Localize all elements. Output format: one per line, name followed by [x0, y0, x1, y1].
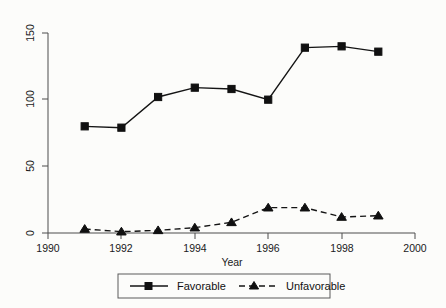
x-tick-label-2000: 2000	[403, 242, 427, 254]
data-point-favorable-1994	[191, 84, 198, 91]
data-point-favorable-1995	[228, 85, 235, 92]
data-point-favorable-1998	[338, 43, 345, 50]
chart-figure: 0 50 100 150 1990 1992 1994 1996 1998 20…	[0, 0, 446, 308]
x-tick-label-1990: 1990	[36, 242, 60, 254]
data-point-favorable-1996	[265, 96, 272, 103]
data-point-favorable-1999	[375, 48, 382, 55]
data-point-favorable-1991	[81, 123, 88, 130]
legend-square-icon	[145, 283, 152, 290]
x-tick-label-1996: 1996	[256, 242, 280, 254]
legend-label-favorable: Favorable	[177, 280, 226, 292]
legend-label-unfavorable: Unfavorable	[286, 280, 345, 292]
x-tick-label-1992: 1992	[109, 242, 133, 254]
chart-canvas: 0 50 100 150 1990 1992 1994 1996 1998 20…	[0, 0, 446, 308]
y-tick-label-0: 0	[24, 230, 36, 236]
data-point-favorable-1997	[301, 44, 308, 51]
data-point-favorable-1992	[118, 124, 125, 131]
x-tick-label-1994: 1994	[183, 242, 207, 254]
y-tick-label-150: 150	[24, 24, 36, 42]
x-axis-title: Year	[221, 256, 243, 268]
y-tick-label-50: 50	[24, 160, 36, 172]
x-tick-label-1998: 1998	[330, 242, 354, 254]
y-tick-label-100: 100	[24, 90, 36, 108]
data-point-favorable-1993	[155, 93, 162, 100]
